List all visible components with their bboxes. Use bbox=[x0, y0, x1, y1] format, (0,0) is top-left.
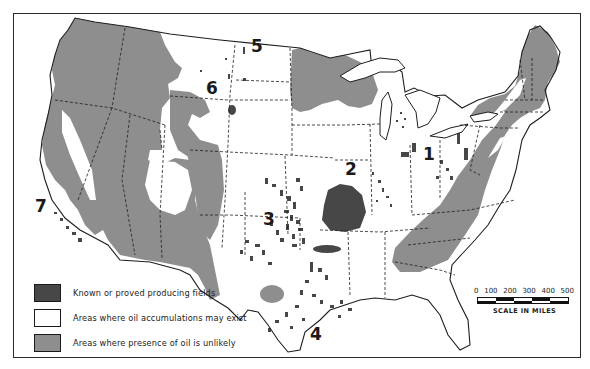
scale-tick: 500 bbox=[561, 287, 574, 295]
region-label-7: 7 bbox=[35, 196, 47, 216]
ohio-dark-2 bbox=[412, 143, 416, 152]
appalachian-gray-band bbox=[392, 25, 560, 272]
lake-erie bbox=[430, 124, 468, 138]
penn-dark-2 bbox=[464, 148, 468, 160]
lake-huron bbox=[405, 90, 440, 128]
lake-michigan bbox=[380, 92, 392, 140]
illinois-basin-dark bbox=[322, 184, 366, 232]
legend-label-producing: Known or proved producing fields bbox=[73, 288, 215, 298]
unlikely-swatch bbox=[34, 334, 61, 352]
california-fields bbox=[54, 212, 82, 242]
scale-tick: 300 bbox=[522, 287, 535, 295]
scale-tick: 0 bbox=[474, 287, 478, 295]
arkoma-dark bbox=[313, 245, 341, 253]
may-exist-swatch bbox=[34, 309, 61, 327]
ohio-dark-1 bbox=[401, 152, 409, 157]
legend-label-may-exist: Areas where oil accumulations may exist bbox=[73, 313, 247, 323]
legend-item-unlikely: Areas where presence of oil is unlikely bbox=[34, 331, 274, 355]
region-label-1: 1 bbox=[423, 144, 435, 164]
region-label-6: 6 bbox=[206, 78, 218, 98]
region-label-3: 3 bbox=[263, 209, 275, 229]
legend-label-unlikely: Areas where presence of oil is unlikely bbox=[73, 338, 236, 348]
region-label-5: 5 bbox=[251, 36, 263, 56]
scale-bar: 0 100 200 300 400 500 SCALE IN MILES bbox=[474, 287, 584, 315]
map-legend: Known or proved producing fields Areas w… bbox=[34, 281, 274, 356]
scale-tick: 100 bbox=[484, 287, 497, 295]
scale-ticks: 0 100 200 300 400 500 bbox=[474, 287, 574, 295]
scale-tick: 200 bbox=[503, 287, 516, 295]
region-label-4: 4 bbox=[310, 324, 322, 344]
scale-bar-graphic bbox=[477, 297, 569, 304]
region-label-2: 2 bbox=[345, 159, 357, 179]
scale-caption: SCALE IN MILES bbox=[493, 307, 584, 315]
williston-fields bbox=[200, 47, 246, 81]
scale-tick: 400 bbox=[541, 287, 554, 295]
legend-item-may-exist: Areas where oil accumulations may exist bbox=[34, 306, 274, 330]
producing-swatch bbox=[34, 284, 61, 302]
legend-item-producing: Known or proved producing fields bbox=[34, 281, 274, 305]
